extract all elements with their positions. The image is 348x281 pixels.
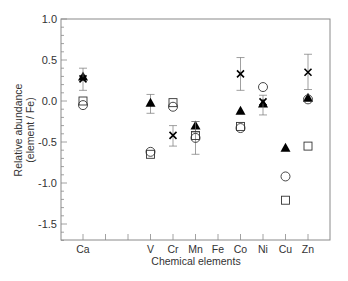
y-tick-label: -0.5 xyxy=(38,136,57,148)
x-tick-label: Cr xyxy=(167,243,179,255)
y-tick-label: 1.0 xyxy=(42,13,57,25)
square-marker xyxy=(304,142,312,150)
x-tick-label: Ni xyxy=(258,243,268,255)
triangle-marker xyxy=(146,98,156,107)
square-marker xyxy=(147,150,155,158)
x-axis-label: Chemical elements xyxy=(151,255,240,267)
x-tick-label: Fe xyxy=(212,243,224,255)
circle-marker xyxy=(259,83,268,92)
data-points xyxy=(78,54,313,204)
x-tick-label: Ca xyxy=(76,243,90,255)
circle-marker xyxy=(236,124,245,133)
x-tick-label: Co xyxy=(234,243,248,255)
x-tick-label: Zn xyxy=(302,243,314,255)
circle-marker xyxy=(146,147,155,156)
x-tick-label: Mn xyxy=(188,243,203,255)
y-axis-label-units: (element / Fe) xyxy=(24,97,36,162)
y-tick-label: 0.5 xyxy=(42,54,57,66)
x-tick-label: V xyxy=(147,243,154,255)
y-axis: 1.00.50.0-0.5-1.0-1.5 xyxy=(38,13,67,240)
triangle-marker xyxy=(281,143,291,152)
y-tick-label: -1.0 xyxy=(38,177,57,189)
triangle-marker xyxy=(236,106,246,115)
chart: 1.00.50.0-0.5-1.0-1.5 CaVCrMnFeCoNiCuZn … xyxy=(0,0,348,281)
y-tick-label: -1.5 xyxy=(38,218,57,230)
square-marker xyxy=(282,196,290,204)
x-axis: CaVCrMnFeCoNiCuZn xyxy=(76,234,314,255)
x-tick-label: Cu xyxy=(279,243,293,255)
y-axis-label: Relative abundance xyxy=(12,83,24,176)
circle-marker xyxy=(281,172,290,181)
y-tick-label: 0.0 xyxy=(42,95,57,107)
